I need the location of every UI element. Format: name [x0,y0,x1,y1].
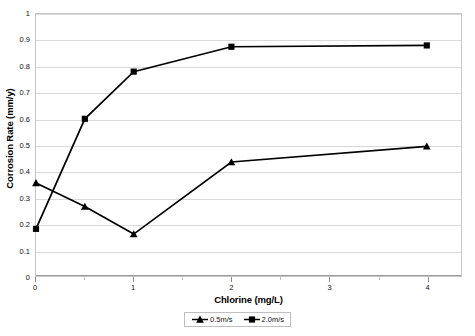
plot-area [35,13,462,277]
y-axis-tick-label: 0 [26,273,30,282]
y-axis-title-text: Corrosion Rate (mm/y) [4,88,15,188]
x-axis-major-tick [329,277,330,282]
data-point-marker [228,44,234,50]
data-point-marker [81,203,89,210]
y-axis-tick-label: 0.9 [20,35,30,44]
data-point-marker [131,69,137,75]
legend-entry[interactable]: 0.5m/s [191,315,233,324]
data-point-marker [82,116,88,122]
y-axis-tick-label: 0.5 [20,141,30,150]
legend-label: 0.5m/s [210,316,233,324]
y-axis-tick-labels: 00.10.20.30.40.50.60.70.80.91 [14,13,33,277]
legend-marker-square-icon [243,315,261,324]
x-axis-major-tick [133,277,134,282]
legend: 0.5m/s2.0m/s [0,312,475,327]
x-axis-minor-tick [379,277,380,280]
series-2.0m/s [33,42,430,232]
x-axis-tick-label: 0 [33,283,37,292]
legend-entry[interactable]: 2.0m/s [243,315,285,324]
y-axis-tick-label: 1 [26,9,30,18]
x-axis-minor-tick [182,277,183,280]
legend-label: 2.0m/s [262,316,285,324]
x-axis-major-tick [35,277,36,282]
legend-marker-triangle-icon [191,315,209,324]
series-line [36,45,427,228]
x-axis-title: Chlorine (mg/L) [35,294,462,305]
corrosion-rate-chart: Corrosion Rate (mm/y) 00.10.20.30.40.50.… [0,0,475,336]
y-axis-tick-label: 0.1 [20,246,30,255]
y-axis-tick-label: 0.8 [20,61,30,70]
y-axis-tick-label: 0.7 [20,88,30,97]
legend-box: 0.5m/s2.0m/s [184,312,291,327]
data-point-marker [424,42,430,48]
y-axis-tick-label: 0.6 [20,114,30,123]
x-axis-major-tick [231,277,232,282]
y-axis-tick-label: 0.3 [20,193,30,202]
x-axis-tick-label: 4 [426,283,430,292]
data-point-marker [32,179,40,186]
x-axis-tick-label: 2 [229,283,233,292]
x-axis-minor-tick [280,277,281,280]
x-axis-minor-tick [84,277,85,280]
series-0.5m/s [32,142,431,237]
series-plot [36,14,461,276]
x-axis-tick-label: 1 [131,283,135,292]
x-axis-major-tick [428,277,429,282]
x-axis-tick-label: 3 [327,283,331,292]
data-point-marker [33,226,39,232]
y-axis-tick-label: 0.4 [20,167,30,176]
y-axis-tick-label: 0.2 [20,220,30,229]
